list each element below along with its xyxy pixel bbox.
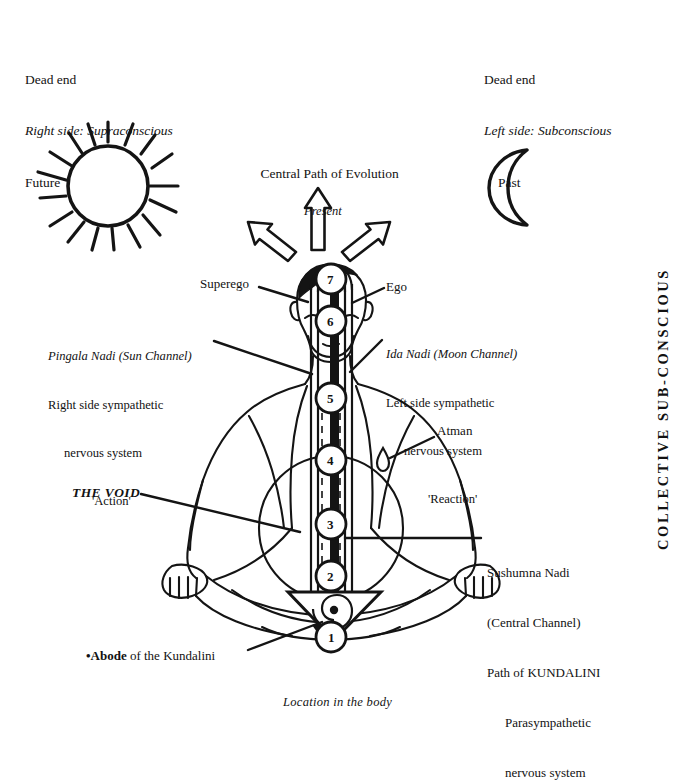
pingala-line3: nervous system xyxy=(48,445,192,461)
ida-line4: 'Reaction' xyxy=(386,491,517,507)
label-ego: Ego xyxy=(386,279,407,296)
label-pingala-nadi-block: Pingala Nadi (Sun Channel) Right side sy… xyxy=(48,316,192,542)
dead-end-left-line1: Dead end xyxy=(25,71,173,88)
dead-end-right-line1: Dead end xyxy=(484,71,612,88)
chakra-number-7: 7 xyxy=(327,272,334,289)
sushumna-line2: (Central Channel) xyxy=(487,615,600,632)
dead-end-right-line3: Past xyxy=(484,174,612,191)
chakra-number-6: 6 xyxy=(327,314,334,331)
dead-end-left-side-block: Dead end Left side: Subconscious Past xyxy=(484,36,612,226)
label-the-void: THE VOID xyxy=(72,484,140,501)
dead-end-left-line2: Right side: Supraconscious xyxy=(25,122,173,139)
label-abode-of-kundalini: •Abode of the Kundalini xyxy=(86,648,215,665)
ida-channel xyxy=(345,284,352,608)
dead-end-left-line3: Future xyxy=(25,174,173,191)
sushumna-line1: Sushumna Nadi xyxy=(487,565,600,582)
central-path-subheading: Present xyxy=(247,203,399,219)
chakra-number-5: 5 xyxy=(327,391,334,408)
chakra-number-2: 2 xyxy=(327,569,334,586)
caption-location-in-the-body: Location in the body xyxy=(283,694,392,710)
label-superego: Superego xyxy=(200,276,249,293)
chakra-number-4: 4 xyxy=(327,453,334,470)
ida-line1: Ida Nadi (Moon Channel) xyxy=(386,346,517,362)
dead-end-right-line2: Left side: Subconscious xyxy=(484,122,612,139)
central-path-heading: Central Path of Evolution xyxy=(261,166,399,181)
dead-end-right-side-block: Dead end Right side: Supraconscious Futu… xyxy=(25,36,173,226)
label-atman: Atman xyxy=(437,423,472,440)
chakra-number-3: 3 xyxy=(327,517,334,534)
label-sushumna-nadi-block: Sushumna Nadi (Central Channel) Path of … xyxy=(487,532,600,784)
sushumna-line3: Path of KUNDALINI xyxy=(487,665,600,682)
abode-rest: of the Kundalini xyxy=(127,648,215,663)
abode-marker: •Abode xyxy=(86,648,127,663)
sushumna-line5: nervous system xyxy=(487,765,600,782)
pingala-channel xyxy=(311,284,318,608)
ida-line3: nervous system xyxy=(386,443,517,459)
sushumna-line4: Parasympathetic xyxy=(487,715,600,732)
chakra-number-1: 1 xyxy=(328,630,335,647)
pingala-line1: Pingala Nadi (Sun Channel) xyxy=(48,348,192,364)
central-path-block: Central Path of Evolution Present xyxy=(247,148,399,253)
label-collective-subconscious: COLLECTIVE SUB-CONSCIOUS xyxy=(655,268,672,550)
pingala-line2: Right side sympathetic xyxy=(48,397,192,413)
ida-line2: Left side sympathetic xyxy=(386,395,517,411)
